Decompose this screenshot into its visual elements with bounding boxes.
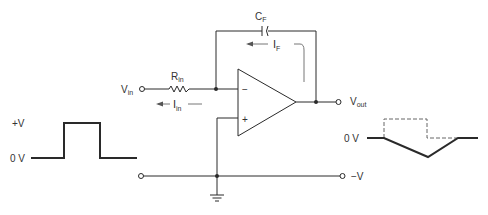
output-terminal: Vout (296, 96, 366, 108)
input-zero-label: 0 V (10, 153, 25, 164)
inverting-input-symbol: − (242, 84, 248, 95)
output-voltage-label: Vout (350, 96, 366, 108)
op-amp: − + (238, 69, 296, 136)
resistor-label: Rin (171, 71, 184, 83)
input-current-indicator: Iin (156, 98, 202, 112)
feedback-current-label: IF (273, 38, 280, 52)
feedback-current-indicator: IF (246, 38, 304, 82)
ground-icon (210, 176, 224, 201)
arrow-left-icon (156, 102, 163, 107)
noninverting-input-symbol: + (242, 114, 248, 125)
integrator-circuit-diagram: CF IF Vin Rin Iin − + Vout (0, 0, 488, 215)
output-zero-label: 0 V (344, 133, 359, 144)
rail-left-terminal (139, 174, 144, 179)
output-terminal-node (336, 100, 341, 105)
reference-pulse-dashed (384, 119, 457, 138)
input-high-label: +V (12, 118, 25, 129)
negative-supply-label: −V (351, 171, 364, 182)
supply-rail: −V (139, 171, 364, 182)
capacitor-label: CF (255, 11, 267, 23)
arrow-left-icon (246, 42, 253, 47)
input-terminal: Vin (121, 84, 169, 96)
output-waveform: 0 V (344, 119, 478, 157)
feedback-capacitor: CF (255, 11, 268, 36)
summing-junction-node (214, 87, 218, 91)
negative-supply-terminal (340, 174, 345, 179)
output-node (314, 100, 318, 104)
output-ramp (367, 138, 478, 157)
input-resistor: Rin (169, 71, 238, 92)
input-voltage-label: Vin (121, 84, 133, 96)
input-terminal-node (140, 87, 145, 92)
input-pulse (31, 123, 137, 158)
input-waveform: +V 0 V (10, 118, 137, 164)
input-current-label: Iin (173, 98, 182, 112)
noninverting-ground-wire (217, 118, 238, 176)
